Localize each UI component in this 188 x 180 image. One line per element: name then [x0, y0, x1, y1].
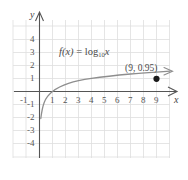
- x-tick-1: 1: [50, 96, 55, 105]
- y-tick-1: 1: [30, 74, 35, 83]
- x-tick-7: 7: [128, 96, 133, 105]
- point-coordinate-label: (9, 0.95): [125, 64, 157, 74]
- x-axis-label: x: [174, 95, 178, 105]
- y-tick-4: 4: [30, 35, 35, 44]
- y-tick-3: 3: [30, 48, 35, 57]
- x-tick-9: 9: [154, 96, 159, 105]
- coordinate-plane-svg: [0, 0, 188, 180]
- y-tick-neg-2: -2: [27, 113, 35, 122]
- x-tick-3: 3: [76, 96, 81, 105]
- y-tick-neg-4: -4: [27, 139, 35, 148]
- x-tick-neg-1: -1: [20, 96, 28, 105]
- x-tick-6: 6: [115, 96, 120, 105]
- x-tick-2: 2: [63, 96, 68, 105]
- log-operator: log: [85, 46, 98, 57]
- x-tick-5: 5: [102, 96, 107, 105]
- y-axis: [36, 12, 44, 158]
- grid-vertical-lines: [13, 20, 170, 158]
- y-axis-label: y: [30, 10, 34, 20]
- log-curve: [41, 68, 173, 119]
- function-variable: x: [105, 46, 110, 57]
- function-equation-label: f(x) = log10x: [59, 47, 109, 59]
- x-axis: [14, 87, 177, 96]
- graph-figure: y x 4 3 2 1 -1 -2 -3 -4 -1 1 2 3 4 5 6 7…: [0, 0, 188, 180]
- x-tick-4: 4: [89, 96, 94, 105]
- y-tick-neg-3: -3: [27, 126, 35, 135]
- function-arg: (x): [62, 46, 74, 57]
- data-point-marker: [153, 76, 159, 82]
- equals-sign: =: [76, 46, 82, 57]
- y-tick-2: 2: [30, 61, 35, 70]
- x-tick-8: 8: [141, 96, 146, 105]
- y-tick-neg-1: -1: [27, 100, 35, 109]
